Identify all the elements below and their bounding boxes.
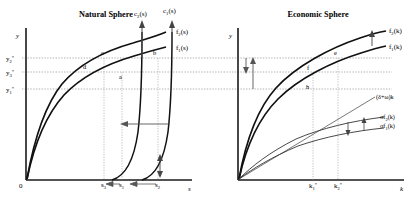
point-label-f: f — [307, 64, 310, 71]
droplines-economic — [313, 58, 338, 180]
curve-sigma-f2-k — [239, 117, 384, 179]
line-depreciation — [239, 97, 375, 179]
curve-tip-arrows-natural — [139, 20, 175, 28]
curve-label-f1-s: f1(s) — [176, 44, 189, 53]
figure-canvas: Natural Sphere y s 0 y2* y3* y1* s3 s1 s… — [0, 0, 416, 202]
panel-economic-sphere: Economic Sphere y k k1* k2* f2(k) f1(k) … — [228, 10, 404, 193]
axis-shift-arrows-natural — [106, 182, 156, 187]
panel-title-natural: Natural Sphere — [79, 10, 133, 19]
x-axis-label-natural: s — [188, 185, 191, 193]
y-tick-labels-natural: y2* y3* y1* — [6, 55, 15, 95]
arrow-c2-up — [139, 20, 145, 28]
curve-label-depreciation: (δ+ω)k — [376, 93, 395, 101]
gap-arrow-f-economic — [369, 30, 375, 46]
curve-f2-k — [239, 31, 386, 179]
x-tick-k2: k2* — [334, 182, 343, 191]
panel-title-economic: Economic Sphere — [287, 10, 348, 19]
y-tick-y3: y3* — [6, 69, 15, 78]
point-label-b: b — [153, 49, 156, 56]
y-axis-label-economic: y — [228, 32, 233, 40]
curve-label-c1-s: c1(s) — [163, 7, 176, 16]
arrow-c1-up — [169, 20, 175, 28]
curve-f1-s — [27, 47, 166, 179]
panel-natural-sphere: Natural Sphere y s 0 y2* y3* y1* s3 s1 s… — [6, 7, 392, 193]
x-tick-s2: s2 — [155, 181, 161, 190]
y-tick-y2: y2* — [6, 55, 15, 64]
curve-label-f1-k: f1(k) — [389, 43, 402, 52]
x-axis-label-economic: k — [400, 185, 404, 193]
curve-c1-s — [142, 32, 172, 180]
gap-arrow-sigma-economic — [346, 117, 367, 136]
point-label-c: c — [101, 49, 104, 56]
curve-label-sigma-f1-k: σf1(k) — [380, 122, 395, 131]
curve-label-c2-s: c2(s) — [134, 10, 147, 19]
point-label-h: h — [306, 83, 310, 90]
x-tick-k1: k1* — [309, 182, 318, 191]
point-label-a: a — [119, 73, 122, 80]
point-label-e: e — [334, 49, 337, 56]
origin-label-natural: 0 — [19, 182, 23, 190]
gap-arrow-yaxis-economic — [243, 57, 256, 89]
x-tick-s1: s1 — [119, 181, 125, 190]
curve-label-f2-s: f2(s) — [176, 28, 189, 37]
curve-f2-s — [27, 32, 166, 179]
curve-label-f2-k: f2(k) — [389, 27, 402, 36]
shift-arrow-horizontal-natural — [120, 121, 170, 127]
curve-f1-k — [239, 46, 386, 179]
economics-diagram: Natural Sphere y s 0 y2* y3* y1* s3 s1 s… — [0, 0, 416, 202]
curve-label-sigma-f2-k: σf2(k) — [380, 113, 395, 122]
y-axis-label-natural: y — [15, 32, 20, 40]
y-tick-y1: y1* — [6, 86, 15, 95]
x-tick-s3: s3 — [101, 181, 107, 190]
